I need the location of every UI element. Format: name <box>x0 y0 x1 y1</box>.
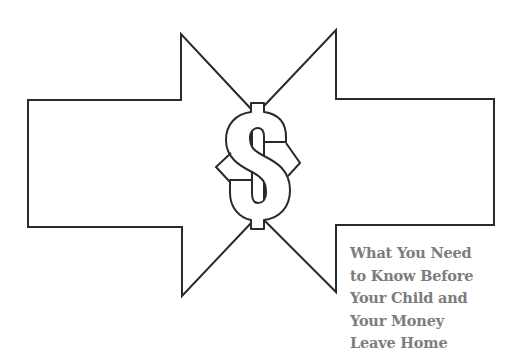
caption-line: Your Child and <box>350 287 473 310</box>
caption-line: What You Need <box>350 242 473 265</box>
caption-line: to Know Before <box>350 265 473 288</box>
caption-title: What You Need to Know Before Your Child … <box>350 242 473 355</box>
caption-line: Your Money <box>350 310 473 333</box>
caption-line: Leave Home <box>350 332 473 355</box>
